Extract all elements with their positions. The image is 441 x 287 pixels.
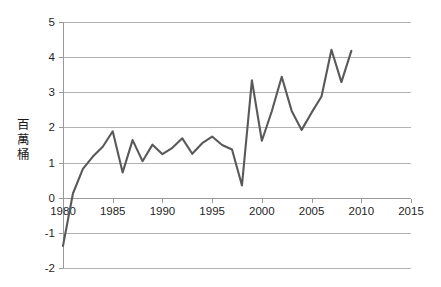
line-chart: 百 萬 桶 543210-1-2 19801985199019952000200… xyxy=(0,0,441,287)
x-tick-label: 2000 xyxy=(249,205,275,217)
y-tick-label: 1 xyxy=(49,157,55,169)
x-tick-label: 2005 xyxy=(299,205,325,217)
x-tick-label: 1985 xyxy=(100,205,126,217)
x-tick-label: 2010 xyxy=(348,205,374,217)
x-tick-labels-group: 19801985199019952000200520102015 xyxy=(50,205,424,217)
y-axis-title: 百 萬 桶 xyxy=(12,118,34,163)
x-tick-label: 2015 xyxy=(398,205,424,217)
y-tick-label: -1 xyxy=(45,227,55,239)
x-tick-label: 1980 xyxy=(50,205,76,217)
plot-area: 543210-1-2 19801985199019952000200520102… xyxy=(0,0,441,287)
y-axis-title-char-3: 桶 xyxy=(12,148,34,163)
y-tick-labels-group: 543210-1-2 xyxy=(45,16,56,274)
y-axis-title-char-1: 百 xyxy=(12,118,34,133)
x-tick-label: 1990 xyxy=(150,205,176,217)
y-axis-title-char-2: 萬 xyxy=(12,133,34,148)
tickmarks-group xyxy=(59,23,412,269)
y-tick-label: 2 xyxy=(49,121,55,133)
y-tick-label: 3 xyxy=(49,86,55,98)
y-tick-label: 5 xyxy=(49,16,55,28)
y-tick-label: 4 xyxy=(49,51,56,63)
y-tick-label: 0 xyxy=(49,192,55,204)
x-tick-label: 1995 xyxy=(199,205,225,217)
y-tick-label: -2 xyxy=(45,262,55,274)
